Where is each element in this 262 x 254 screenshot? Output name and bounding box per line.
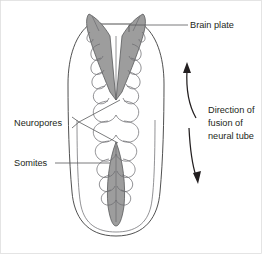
label-brain-plate: Brain plate — [190, 20, 234, 30]
label-neuropores: Neuropores — [14, 118, 62, 128]
label-direction-line-1: Direction of — [208, 105, 255, 115]
label-somites: Somites — [14, 158, 48, 168]
label-direction-line-3: neural tube — [208, 131, 254, 141]
arrow-up-curve — [187, 70, 196, 118]
arrow-up-head — [183, 62, 191, 73]
arrow-down-curve — [189, 128, 196, 176]
arrow-down-head — [193, 171, 201, 184]
direction-arrows — [183, 62, 201, 184]
diagram-canvas: Brain plate Neuropores Somites Direction… — [0, 0, 262, 254]
label-direction-line-2: fusion of — [208, 118, 243, 128]
neural-tube-diagram: Brain plate Neuropores Somites Direction… — [0, 0, 262, 254]
